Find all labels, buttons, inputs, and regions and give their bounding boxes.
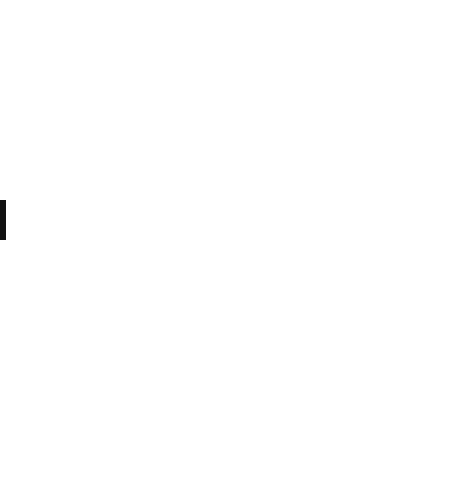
logic-diagram xyxy=(0,0,475,478)
page-tab xyxy=(0,200,6,240)
